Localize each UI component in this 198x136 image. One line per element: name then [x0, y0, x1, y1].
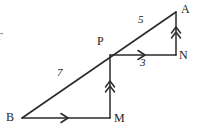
length-label-bp: 7 — [57, 67, 63, 78]
geometry-drawing-canvas — [0, 0, 198, 136]
length-label-pa: 5 — [138, 14, 144, 25]
vertex-label-p: P — [97, 35, 104, 47]
segment-hypotenuse-b-to-a — [22, 12, 176, 118]
vertex-label-b: B — [6, 111, 14, 123]
geometry-figure: A P N B M 5 7 3 Γ — [0, 0, 198, 136]
vertex-label-n: N — [179, 49, 188, 61]
length-label-pn: 3 — [140, 57, 146, 68]
vertex-label-a: A — [181, 3, 190, 15]
clipped-glyph-artifact: Γ — [0, 31, 3, 44]
vertex-label-m: M — [114, 112, 125, 124]
